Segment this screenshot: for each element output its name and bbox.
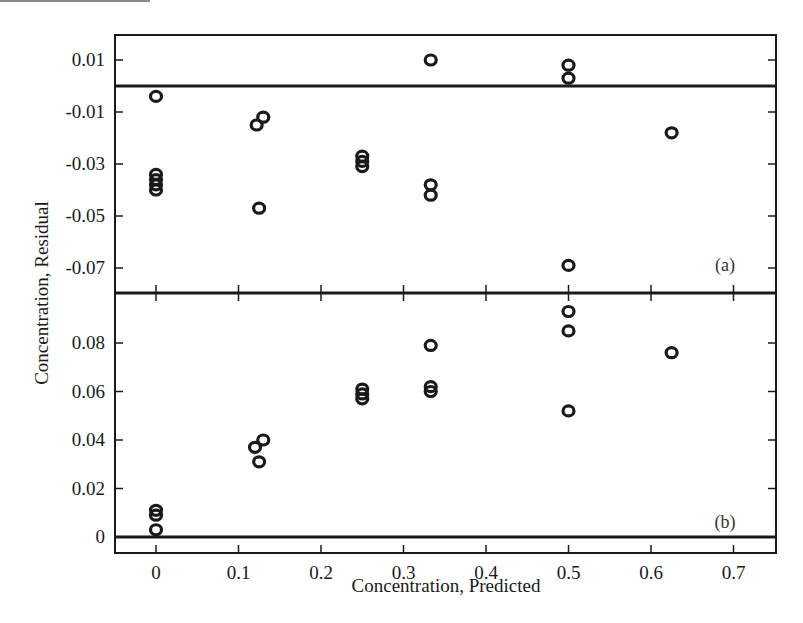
- x-tick-label: 0.1: [227, 562, 251, 583]
- data-point-circle: [563, 73, 574, 83]
- panel-b-points: [151, 306, 678, 534]
- panel-b-label: (b): [715, 512, 736, 533]
- x-tick-label: 0.6: [639, 562, 663, 583]
- y-tick-label-b: 0.04: [72, 429, 106, 450]
- data-point-circle: [151, 525, 162, 535]
- y-tick-label-a: -0.07: [65, 257, 105, 278]
- residual-scatter-figure: 0.01-0.01-0.03-0.05-0.0700.020.040.060.0…: [0, 0, 803, 623]
- data-point-circle: [563, 406, 574, 416]
- data-point-circle: [258, 435, 269, 445]
- panel-a-label: (a): [715, 255, 735, 276]
- plot-frame: [115, 35, 776, 553]
- data-point-circle: [425, 55, 436, 65]
- y-tick-label-b: 0.06: [72, 381, 105, 402]
- x-tick-label: 0.7: [722, 562, 746, 583]
- data-point-circle: [666, 348, 677, 358]
- y-tick-label-b: 0.02: [72, 478, 105, 499]
- data-point-circle: [563, 60, 574, 70]
- x-tick-label: 0.2: [309, 562, 333, 583]
- data-point-circle: [425, 340, 436, 350]
- y-tick-label-a: -0.05: [65, 205, 105, 226]
- x-axis-title: Concentration, Predicted: [352, 575, 541, 596]
- data-point-circle: [666, 128, 677, 138]
- y-tick-label-b: 0: [96, 526, 106, 547]
- tick-labels: 0.01-0.01-0.03-0.05-0.0700.020.040.060.0…: [65, 49, 745, 583]
- data-point-circle: [425, 190, 436, 200]
- x-tick-label: 0.5: [557, 562, 581, 583]
- data-point-circle: [425, 180, 436, 190]
- y-tick-label-b: 0.08: [72, 332, 105, 353]
- y-tick-label-a: -0.03: [65, 153, 105, 174]
- y-axis-title: Concentration, Residual: [31, 201, 52, 385]
- data-point-circle: [151, 91, 162, 101]
- x-tick-label: 0: [151, 562, 161, 583]
- data-point-circle: [563, 260, 574, 270]
- y-tick-label-a: 0.01: [72, 49, 105, 70]
- data-point-circle: [563, 306, 574, 316]
- y-tick-label-a: -0.01: [65, 101, 105, 122]
- data-point-circle: [254, 457, 265, 467]
- data-point-circle: [258, 112, 269, 122]
- data-point-circle: [254, 203, 265, 213]
- data-point-circle: [563, 326, 574, 336]
